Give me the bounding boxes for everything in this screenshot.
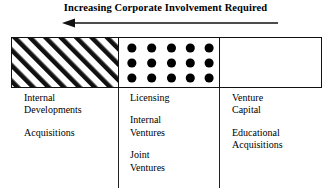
label-line: Acquisitions [24,127,116,139]
label-group: Joint Ventures [130,149,216,174]
label-group: Venture Capital [232,92,328,117]
diagram-title: Increasing Corporate Involvement Require… [0,1,331,14]
column-internal: Internal Developments Acquisitions [24,92,116,139]
label-line: Venture [232,92,328,104]
corporate-involvement-diagram: Increasing Corporate Involvement Require… [0,0,331,194]
category-band [11,37,322,88]
dot-grid-pattern-icon [119,38,219,87]
label-group: Internal Developments [24,92,116,117]
label-group: Licensing [130,92,216,104]
diagonal-hatch-pattern-icon [12,38,118,87]
label-line: Joint [130,149,216,161]
label-line: Internal [24,92,116,104]
column-external: Venture Capital Educational Acquisitions [232,92,328,152]
label-columns: Internal Developments Acquisitions Licen… [0,92,331,194]
label-group: Educational Acquisitions [232,127,328,152]
label-group: Acquisitions [24,127,116,139]
label-line: Acquisitions [232,139,328,151]
column-venturing: Licensing Internal Ventures Joint Ventur… [130,92,216,174]
label-line: Developments [24,104,116,116]
label-line: Educational [232,127,328,139]
internal-development-cell [12,38,119,87]
external-cell [220,38,321,87]
label-line: Internal [130,114,216,126]
label-group: Internal Ventures [130,114,216,139]
label-line: Licensing [130,92,216,104]
label-line: Ventures [130,162,216,174]
label-line: Capital [232,104,328,116]
left-arrow-container [0,15,331,27]
label-line: Ventures [130,127,216,139]
left-arrow-icon [0,17,331,29]
venturing-cell [119,38,220,87]
